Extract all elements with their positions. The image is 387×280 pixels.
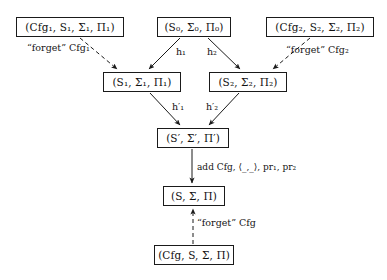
node-s0-label: (S₀, Σ₀, Π₀) [159, 21, 228, 33]
node-s-prime[interactable]: (S′, Σ′, Π′) [157, 128, 229, 148]
edge-label-forget-cfg1: “forget” Cfg₁ [27, 42, 90, 53]
edge-label-add-cfg: add Cfg, ⟨_,_⟩, pr₁, pr₂ [197, 162, 296, 172]
node-cfg1[interactable]: (Cfg₁, S₁, Σ₁, Π₁) [16, 17, 124, 37]
node-s1[interactable]: (S₁, Σ₁, Π₁) [103, 72, 181, 92]
edge-label-h1: h₁ [176, 46, 186, 57]
edge-label-forget-cfg2: “forget” Cfg₂ [286, 44, 349, 55]
node-cfg1-label: (Cfg₁, S₁, Σ₁, Π₁) [20, 21, 119, 33]
node-s2-label: (S₂, Σ₂, Π₂) [213, 76, 282, 88]
node-s[interactable]: (S, Σ, Π) [163, 186, 225, 206]
node-s2[interactable]: (S₂, Σ₂, Π₂) [209, 72, 287, 92]
diagram-canvas: (Cfg₁, S₁, Σ₁, Π₁) (S₀, Σ₀, Π₀) (Cfg₂, S… [0, 0, 387, 280]
node-cfg-s-label: (Cfg, S, Σ, Π) [153, 249, 235, 261]
node-cfg-s[interactable]: (Cfg, S, Σ, Π) [154, 245, 234, 265]
node-cfg2-label: (Cfg₂, S₂, Σ₂, Π₂) [270, 21, 369, 33]
edge-label-h1-prime: h′₁ [172, 101, 184, 112]
node-cfg2[interactable]: (Cfg₂, S₂, Σ₂, Π₂) [266, 17, 374, 37]
node-s-prime-label: (S′, Σ′, Π′) [161, 132, 225, 144]
edge-label-h2: h₂ [207, 46, 217, 57]
node-s-label: (S, Σ, Π) [166, 190, 222, 202]
node-s1-label: (S₁, Σ₁, Π₁) [107, 76, 176, 88]
edge-label-forget-cfg: “forget” Cfg [197, 217, 256, 228]
node-s0[interactable]: (S₀, Σ₀, Π₀) [157, 17, 231, 37]
edge-label-h2-prime: h′₂ [206, 101, 218, 112]
